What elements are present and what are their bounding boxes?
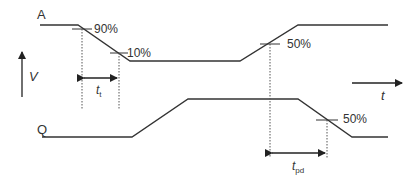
signal-q-waveform (42, 99, 388, 137)
t-axis-label: t (381, 89, 385, 102)
v-axis-label: V (29, 70, 38, 83)
label-q-50-percent: 50% (343, 113, 367, 125)
tpd-label-sub: pd (295, 166, 304, 175)
label-10-percent: 10% (127, 47, 151, 59)
timing-diagram: A Q 90% 10% 50% 50% V t tt tpd (0, 0, 420, 184)
label-a-50-percent: 50% (287, 38, 311, 50)
label-90-percent: 90% (94, 23, 118, 35)
timing-diagram-graphics (0, 0, 420, 184)
signal-q-label: Q (37, 123, 47, 136)
signal-a-waveform (40, 25, 388, 61)
tt-label-sub: t (99, 90, 101, 99)
signal-a-label: A (37, 8, 46, 21)
tt-label: tt (96, 84, 102, 99)
tpd-label: tpd (292, 160, 304, 175)
